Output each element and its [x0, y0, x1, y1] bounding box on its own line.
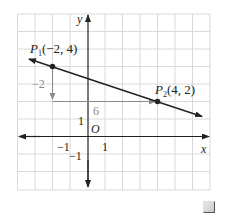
run-label: 6 [93, 105, 99, 117]
y-tick-neg1: −1 [69, 150, 82, 162]
point-p2 [155, 99, 161, 105]
point-p1-label: P1(−2, 4) [30, 42, 77, 58]
x-axis-label: x [201, 143, 206, 155]
point-p1-name: P [30, 41, 38, 56]
x-tick-pos1: 1 [102, 141, 108, 153]
y-tick-pos1: 1 [78, 115, 84, 127]
point-p1 [50, 64, 56, 70]
point-p2-label: P2(4, 2) [155, 83, 195, 99]
expand-button[interactable] [203, 201, 215, 213]
coordinate-plane-svg [0, 0, 225, 224]
origin-label: O [91, 123, 100, 135]
rise-label: −2 [32, 78, 45, 90]
coordinate-plane-figure: y x O −1 1 1 −1 P1(−2, 4) P2(4, 2) −2 6 [0, 0, 225, 224]
point-p2-coords: (4, 2) [167, 82, 195, 97]
point-p1-coords: (−2, 4) [42, 41, 78, 56]
point-p2-name: P [155, 82, 163, 97]
y-axis-label: y [77, 13, 82, 25]
x-tick-neg1: −1 [57, 141, 70, 153]
